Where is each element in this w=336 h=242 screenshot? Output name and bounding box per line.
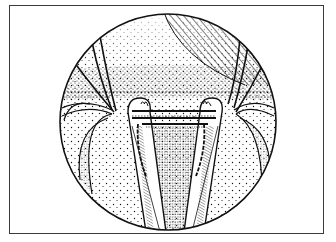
surgical-illustration [0, 0, 336, 242]
